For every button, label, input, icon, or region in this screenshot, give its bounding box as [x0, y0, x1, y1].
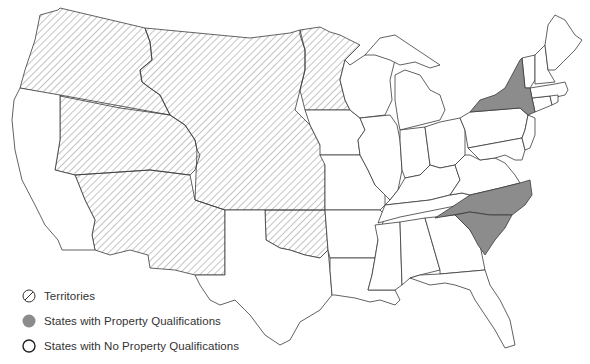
state-connecticut [532, 96, 552, 112]
state-maine [545, 15, 582, 70]
legend-label: States with Property Qualifications [44, 315, 221, 327]
state-michigan [395, 70, 445, 130]
legend-item-territories: Territories [22, 283, 239, 308]
legend-item-property: States with Property Qualifications [22, 308, 239, 333]
state-florida [410, 270, 515, 348]
map-legend: Territories States with Property Qualifi… [22, 283, 239, 358]
hatched-circle-icon [22, 289, 36, 303]
legend-label: States with No Property Qualifications [44, 340, 239, 352]
open-circle-icon [22, 339, 36, 353]
legend-item-no-property: States with No Property Qualifications [22, 333, 239, 358]
state-massachusetts [530, 82, 568, 98]
legend-label: Territories [44, 290, 95, 302]
gray-filled-circle-icon [22, 314, 36, 328]
